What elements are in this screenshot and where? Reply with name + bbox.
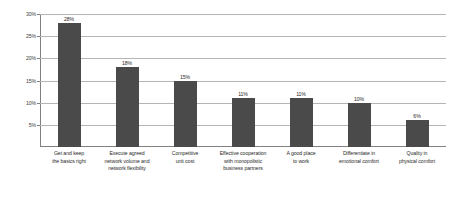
bar-slot: 6% [388, 14, 446, 147]
bar[interactable]: 28% [58, 23, 81, 147]
bar-slot: 18% [98, 14, 156, 147]
category-label: Differentiate inemotional comfort [330, 150, 388, 165]
bars-layer: 28%18%15%11%11%10%6% [40, 14, 446, 147]
category-label: Quality inphysical comfort [388, 150, 446, 165]
bar-slot: 28% [40, 14, 98, 147]
category-label: Get and keepthe basics right [40, 150, 98, 165]
bar[interactable]: 10% [348, 103, 371, 147]
bar-value-label: 15% [180, 74, 190, 80]
category-label: Execute agreednetwork volume andnetwork … [98, 150, 156, 173]
y-axis-tick-label: 5% [29, 122, 36, 128]
bar-slot: 11% [214, 14, 272, 147]
category-label: A good placeto work [272, 150, 330, 165]
bar-value-label: 18% [122, 60, 132, 66]
bar-value-label: 11% [238, 91, 248, 97]
bar[interactable]: 11% [290, 98, 313, 147]
bar[interactable]: 11% [232, 98, 255, 147]
bar[interactable]: 18% [116, 67, 139, 147]
category-axis-labels: Get and keepthe basics rightExecute agre… [40, 150, 446, 202]
bar-slot: 15% [156, 14, 214, 147]
plot-area: 30%25%20%15%10%5% 28%18%15%11%11%10%6% [40, 14, 446, 147]
y-axis-tick-label: 20% [26, 55, 36, 61]
bar-value-label: 11% [296, 91, 306, 97]
bar-slot: 10% [330, 14, 388, 147]
bar-chart: 30%25%20%15%10%5% 28%18%15%11%11%10%6% G… [0, 0, 456, 205]
y-axis-tick-label: 30% [26, 11, 36, 17]
bar-slot: 11% [272, 14, 330, 147]
y-axis-tick-label: 25% [26, 33, 36, 39]
y-axis-tick-label: 15% [26, 78, 36, 84]
bar-value-label: 28% [64, 16, 74, 22]
bar-value-label: 10% [354, 96, 364, 102]
bar-value-label: 6% [413, 113, 420, 119]
category-label: Effective cooperationwith monopolisticbu… [214, 150, 272, 173]
bar[interactable]: 6% [406, 120, 429, 147]
category-label: Competitiveunit cost [156, 150, 214, 165]
bar[interactable]: 15% [174, 81, 197, 148]
y-axis-tick-label: 10% [26, 100, 36, 106]
